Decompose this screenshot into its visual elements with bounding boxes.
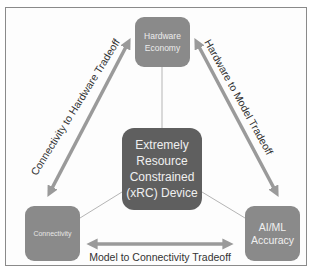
connector-line-connectivity	[80, 192, 122, 218]
node-connectivity: Connectivity	[25, 206, 80, 261]
node-ai-line-1: AI/ML	[251, 221, 294, 234]
node-hardware-line-2: Economy	[144, 42, 181, 54]
arrow-hardware-model	[197, 43, 276, 192]
center-line-2: Resource	[126, 153, 197, 169]
node-ai-ml-accuracy: AI/ML Accuracy	[245, 206, 300, 261]
node-hardware-economy: Hardware Economy	[135, 17, 190, 67]
center-line-3: Constrained	[126, 169, 197, 185]
node-connectivity-label: Connectivity	[33, 230, 71, 237]
center-line-1: Extremely	[126, 137, 197, 153]
node-hardware-line-1: Hardware	[144, 30, 181, 42]
label-model-connectivity-tradeoff: Model to Connectivity Tradeoff	[89, 251, 231, 263]
center-line-4: (xRC) Device	[126, 185, 197, 201]
node-ai-line-2: Accuracy	[251, 234, 294, 247]
node-xrc-device: Extremely Resource Constrained (xRC) Dev…	[122, 128, 202, 210]
connector-line-ai	[202, 192, 245, 218]
